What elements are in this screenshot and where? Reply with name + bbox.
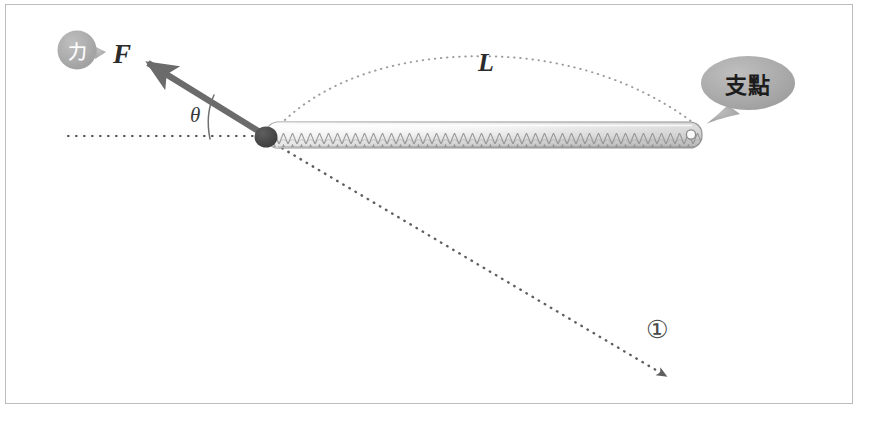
force-vector-label: F bbox=[113, 41, 132, 68]
force-bubble-label: 力 bbox=[58, 30, 96, 70]
pivot-point bbox=[255, 127, 278, 148]
bar-serration-texture bbox=[266, 133, 702, 147]
line-of-action-extension bbox=[270, 141, 666, 376]
figure-canvas: F L θ ① 力 支點 bbox=[0, 0, 870, 429]
lever-bar bbox=[266, 122, 702, 148]
marker-one-label: ① bbox=[646, 317, 668, 342]
lever-length-label: L bbox=[478, 50, 494, 76]
fulcrum-bubble: 支點 bbox=[700, 55, 796, 123]
fulcrum-bubble-label: 支點 bbox=[700, 57, 796, 109]
force-bubble: 力 bbox=[58, 30, 102, 70]
fulcrum-hole bbox=[686, 130, 695, 139]
angle-label: θ bbox=[190, 105, 200, 126]
